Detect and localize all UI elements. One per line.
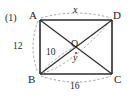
measure-label-segment-BO: 10 bbox=[46, 48, 56, 58]
vertex-label-C: C bbox=[114, 74, 121, 85]
measure-label-top-side-AD: x bbox=[73, 5, 77, 15]
measure-label-left-side-AB: 12 bbox=[13, 42, 23, 52]
vertex-label-A: A bbox=[29, 10, 37, 21]
vertex-label-B: B bbox=[28, 74, 35, 85]
vertex-label-D: D bbox=[113, 10, 121, 21]
measure-arc-AB bbox=[33, 21, 38, 73]
geometry-figure: (1) A D B C O x 12 16 10 y bbox=[0, 0, 136, 96]
measure-label-segment-OC: y bbox=[73, 53, 77, 63]
item-number: (1) bbox=[5, 13, 17, 23]
measure-label-bottom-side-BC: 16 bbox=[70, 82, 80, 92]
vertex-label-O: O bbox=[71, 39, 78, 49]
